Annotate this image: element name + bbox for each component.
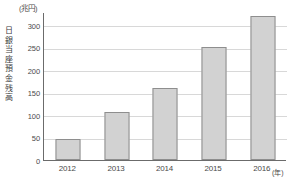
x-tick-label: 2015 [189,164,238,173]
x-axis-tick-labels: 20122013201420152016 [43,164,286,178]
bar-slot [238,13,287,160]
x-tick-label: 2012 [43,164,92,173]
plot-area [43,13,286,161]
y-tick-label: 100 [18,112,40,121]
bar-slot [141,13,190,160]
bar[interactable] [202,47,227,160]
bar-chart: (兆円) 日銀当座預金残高 050100150200250300 2012201… [0,0,294,187]
bar[interactable] [56,139,81,160]
y-axis-unit-label: (兆円) [19,2,37,13]
bar[interactable] [250,16,275,160]
bar-slot [93,13,142,160]
y-tick-label: 250 [18,44,40,53]
y-tick-label: 0 [18,157,40,166]
y-tick-label: 50 [18,134,40,143]
y-tick-label: 300 [18,22,40,31]
y-tick-label: 150 [18,89,40,98]
x-tick-label: 2013 [92,164,141,173]
x-tick-label: 2014 [140,164,189,173]
bar-slot [190,13,239,160]
y-tick-label: 200 [18,67,40,76]
bar-slot [44,13,93,160]
y-axis-title: 日銀当座預金残高 [3,26,15,103]
bar-series [44,13,286,160]
bar[interactable] [153,88,178,160]
bar[interactable] [104,112,129,160]
x-axis-unit-label: (年) [272,167,284,177]
